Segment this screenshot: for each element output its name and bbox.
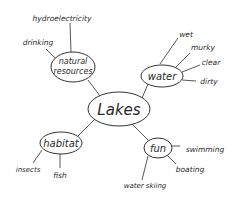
leaf-hydroelectricity: hydroelectricity: [33, 14, 92, 23]
branch-label-water: water: [148, 71, 177, 82]
leaf-boating: boating: [176, 165, 205, 174]
leaf-fish: fish: [53, 171, 67, 180]
connector-murky: [176, 53, 190, 67]
connector-wet: [160, 38, 178, 64]
branch-label-habitat: habitat: [43, 138, 80, 149]
leaf-insects: insects: [16, 166, 41, 174]
connector-dirty: [182, 80, 196, 81]
connector-center-fun: [132, 124, 148, 140]
connector-water-skiing: [142, 156, 148, 180]
leaf-murky: murky: [191, 43, 215, 52]
branch-label-fun: fun: [150, 143, 166, 154]
branch-label-natural-resources-line2: resources: [53, 67, 92, 76]
connector-drinking: [46, 49, 55, 58]
connector-clear: [182, 65, 200, 72]
leaf-dirty: dirty: [200, 77, 218, 86]
connector-hydroelectricity: [70, 23, 71, 52]
connector-insects: [33, 150, 42, 163]
connector-center-natural-resources: [88, 80, 100, 96]
mind-map: Lakes natural resources water habitat fu…: [0, 0, 238, 205]
connector-center-water: [142, 84, 148, 98]
connector-center-habitat: [78, 118, 96, 136]
center-label: Lakes: [97, 101, 140, 119]
leaf-swimming: swimming: [186, 145, 225, 154]
leaf-drinking: drinking: [23, 38, 54, 47]
leaf-wet: wet: [179, 30, 194, 39]
branch-label-natural-resources-line1: natural: [59, 57, 88, 66]
leaf-clear: clear: [202, 58, 221, 67]
leaf-water-skiing: water skiing: [124, 182, 167, 190]
